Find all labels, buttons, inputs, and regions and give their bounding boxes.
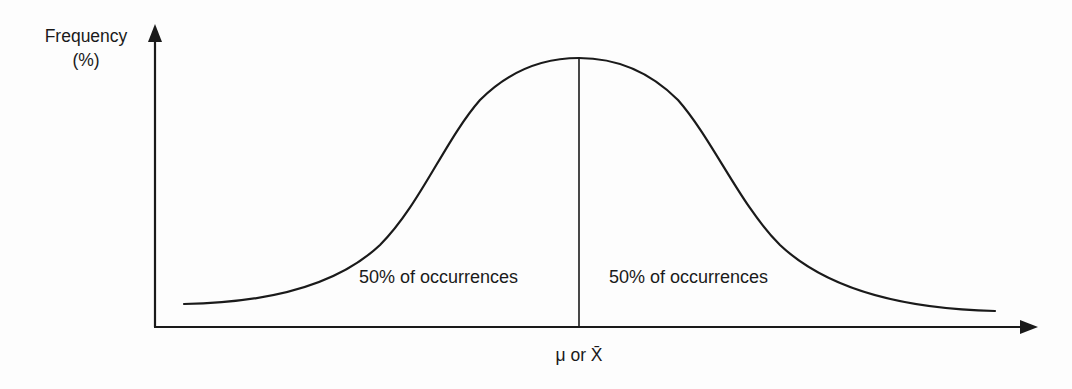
normal-distribution-figure: Frequency (%) 50% of occurrences 50% of … (0, 0, 1072, 389)
bell-curve (184, 58, 995, 311)
y-axis-label-line2: (%) (72, 50, 99, 70)
chart-canvas: Frequency (%) 50% of occurrences 50% of … (0, 0, 1072, 389)
left-region-label: 50% of occurrences (359, 267, 518, 287)
right-region-label: 50% of occurrences (609, 267, 768, 287)
y-axis-arrow-icon (148, 24, 162, 42)
x-axis-arrow-icon (1020, 320, 1038, 334)
x-axis-mean-label: μ or X̄ (555, 345, 602, 365)
y-axis-label-line1: Frequency (45, 26, 128, 46)
